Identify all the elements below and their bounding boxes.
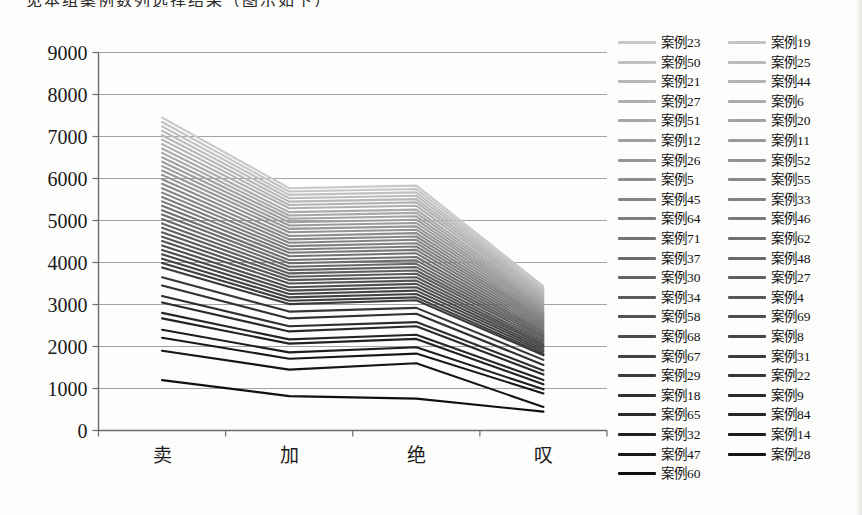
legend-swatch [728,453,766,456]
legend-label: 案例14 [771,426,811,443]
legend-swatch [618,374,656,377]
legend-label: 案例47 [661,446,701,463]
legend-row: 案例50案例25 [618,54,858,71]
y-axis-tick-label: 4000 [48,252,88,274]
legend-label: 案例31 [771,348,811,365]
legend-swatch [728,61,766,64]
legend-label: 案例60 [661,465,701,482]
legend-row: 案例51案例20 [618,112,858,129]
legend-row: 案例67案例31 [618,348,858,365]
legend-label: 案例6 [771,93,804,110]
legend-swatch [728,374,766,377]
legend-label: 案例37 [661,250,701,267]
legend-swatch [618,413,656,416]
y-axis-tick-label: 9000 [48,42,88,64]
legend-row: 案例58案例69 [618,308,858,325]
legend-swatch [618,276,656,279]
legend-row: 案例27案例6 [618,93,858,110]
legend-label: 案例46 [771,210,811,227]
legend-row: 案例32案例14 [618,426,858,443]
legend-row: 案例68案例8 [618,328,858,345]
y-axis-tick-label: 0 [78,420,88,442]
legend-label: 案例65 [661,406,701,423]
legend-label: 案例55 [771,171,811,188]
legend-swatch [728,119,766,122]
legend-row: 案例30案例27 [618,269,858,286]
legend-label: 案例50 [661,54,701,71]
legend-swatch [618,237,656,240]
x-axis-category-label: 卖 [153,445,172,466]
legend-label: 案例11 [771,132,810,149]
legend-swatch [618,119,656,122]
legend-swatch [618,139,656,142]
legend-label: 案例62 [771,230,811,247]
legend-row: 案例23案例19 [618,34,858,51]
legend-swatch [618,217,656,220]
legend-swatch [618,257,656,260]
legend-swatch [728,355,766,358]
legend-swatch [728,139,766,142]
legend-row: 案例45案例33 [618,191,858,208]
legend-label: 案例27 [771,269,811,286]
legend-label: 案例8 [771,328,804,345]
legend-label: 案例4 [771,289,804,306]
x-axis-category-label: 叹 [534,445,553,466]
legend-label: 案例26 [661,152,701,169]
legend-swatch [728,217,766,220]
legend-label: 案例25 [771,54,811,71]
legend-label: 案例51 [661,112,701,129]
legend-row: 案例64案例46 [618,210,858,227]
legend-swatch [618,433,656,436]
legend-label: 案例21 [661,73,701,90]
y-axis-tick-label: 5000 [48,210,88,232]
legend-swatch [728,433,766,436]
legend-label: 案例68 [661,328,701,345]
legend-label: 案例30 [661,269,701,286]
legend-row: 案例60 [618,465,858,482]
legend-label: 案例27 [661,93,701,110]
legend-row: 案例37案例48 [618,250,858,267]
legend-label: 案例34 [661,289,701,306]
legend-row: 案例29案例22 [618,367,858,384]
x-axis-category-label: 绝 [407,445,426,466]
legend-label: 案例23 [661,34,701,51]
legend-swatch [728,394,766,397]
legend-swatch [728,100,766,103]
y-axis-tick-label: 1000 [48,378,88,400]
legend-swatch [728,198,766,201]
legend-swatch [618,296,656,299]
chart-legend: 案例23案例19案例50案例25案例21案例44案例27案例6案例51案例20案… [618,34,858,494]
legend-swatch [728,159,766,162]
legend-label: 案例19 [771,34,811,51]
legend-swatch [618,159,656,162]
legend-swatch [728,413,766,416]
legend-swatch [728,257,766,260]
legend-row: 案例65案例84 [618,406,858,423]
legend-swatch [728,315,766,318]
legend-swatch [618,472,656,475]
legend-row: 案例21案例44 [618,73,858,90]
legend-swatch [618,61,656,64]
legend-label: 案例22 [771,367,811,384]
legend-label: 案例69 [771,308,811,325]
legend-swatch [728,296,766,299]
legend-swatch [728,237,766,240]
legend-row: 案例71案例62 [618,230,858,247]
y-axis-tick-label: 7000 [48,126,88,148]
legend-swatch [728,41,766,44]
legend-swatch [728,276,766,279]
legend-swatch [618,394,656,397]
legend-swatch [618,100,656,103]
series-line-案例60 [162,380,543,412]
legend-label: 案例18 [661,387,701,404]
y-axis-tick-label: 3000 [48,294,88,316]
legend-swatch [728,80,766,83]
legend-label: 案例44 [771,73,811,90]
legend-label: 案例28 [771,446,811,463]
legend-swatch [618,315,656,318]
legend-row: 案例5案例55 [618,171,858,188]
legend-row: 案例34案例4 [618,289,858,306]
legend-label: 案例48 [771,250,811,267]
legend-swatch [618,41,656,44]
legend-label: 案例5 [661,171,694,188]
